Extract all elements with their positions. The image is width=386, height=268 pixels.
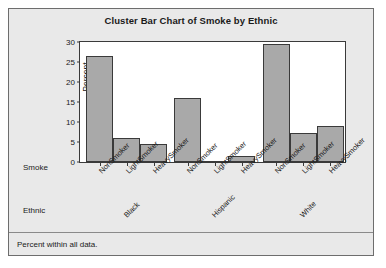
y-tick-mark [77,142,80,143]
y-tick-mark [77,42,80,43]
footnote: Percent within all data. [17,240,98,249]
y-tick-mark [77,82,80,83]
group-tick-label: White [298,199,318,219]
footnote-divider [9,232,373,233]
y-tick-mark [77,162,80,163]
bar [86,56,113,162]
y-tick-mark [77,62,80,63]
chart-title: Cluster Bar Chart of Smoke by Ethnic [9,15,373,26]
chart-panel: Cluster Bar Chart of Smoke by Ethnic Per… [8,8,374,256]
y-tick-mark [77,102,80,103]
row-label-smoke: Smoke [23,163,48,172]
row-label-ethnic: Ethnic [23,206,45,215]
group-tick-label: Black [122,200,141,219]
group-tick-label: Hispanic [210,193,237,220]
y-tick-mark [77,122,80,123]
